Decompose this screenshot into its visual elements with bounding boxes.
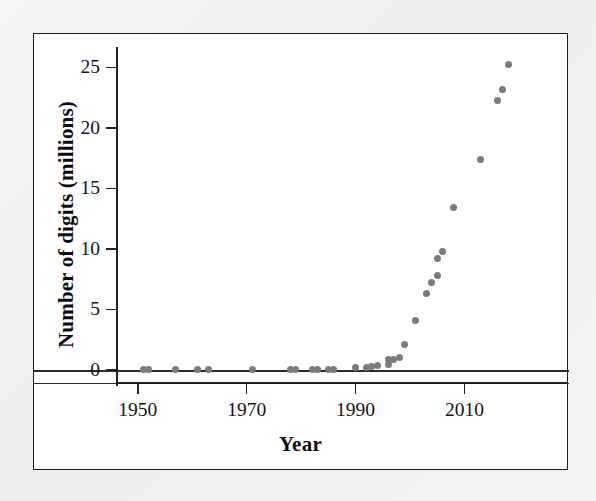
x-tick-1990 <box>355 383 357 394</box>
x-tick-label-1950: 1950 <box>103 400 173 420</box>
data-point <box>194 366 201 373</box>
y-tick-5 <box>106 309 116 311</box>
figure-page: 0510152025 1950197019902010 Year Number … <box>0 0 596 501</box>
x-axis-spine <box>116 382 568 384</box>
chart-frame: 0510152025 1950197019902010 Year Number … <box>33 33 568 470</box>
x-tick-2010 <box>464 383 466 394</box>
x-tick-1950 <box>137 383 139 394</box>
x-tick-label-1990: 1990 <box>321 400 391 420</box>
data-point <box>439 248 446 255</box>
data-point <box>205 366 212 373</box>
data-point <box>499 86 506 93</box>
data-point <box>450 204 457 211</box>
x-axis-label: Year <box>34 432 567 457</box>
data-point <box>374 362 381 369</box>
data-point <box>412 317 419 324</box>
data-point <box>314 366 321 373</box>
data-point <box>505 61 512 68</box>
y-axis-label: Number of digits (millions) <box>54 75 79 375</box>
data-point <box>396 354 403 361</box>
x-tick-1970 <box>246 383 248 394</box>
y-tick-15 <box>106 188 116 190</box>
data-point <box>352 364 359 371</box>
x-tick-label-1970: 1970 <box>212 400 282 420</box>
y-tick-0 <box>106 369 116 371</box>
data-point <box>401 341 408 348</box>
y-tick-25 <box>106 67 116 69</box>
data-point <box>292 366 299 373</box>
y-axis-spine <box>116 47 118 386</box>
data-point <box>434 272 441 279</box>
data-point <box>330 366 337 373</box>
y-tick-10 <box>106 248 116 250</box>
data-point <box>249 366 256 373</box>
data-point <box>494 97 501 104</box>
x-tick-label-2010: 2010 <box>430 400 500 420</box>
data-point <box>434 255 441 262</box>
data-point <box>423 290 430 297</box>
data-point <box>172 366 179 373</box>
data-point <box>477 156 484 163</box>
y-tick-20 <box>106 127 116 129</box>
scatter-plot: 0510152025 1950197019902010 Year Number … <box>34 34 567 469</box>
data-point <box>145 366 152 373</box>
data-point <box>428 279 435 286</box>
